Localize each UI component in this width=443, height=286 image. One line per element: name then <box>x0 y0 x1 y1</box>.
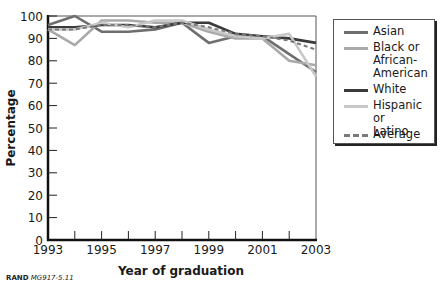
y-axis-title: Percentage <box>4 89 18 166</box>
legend-swatch-icon <box>344 31 368 34</box>
y-tick-label: 100 <box>20 10 43 24</box>
y-tick-label: 80 <box>28 54 43 68</box>
y-tick-label: 20 <box>28 189 43 203</box>
y-tick-label: 90 <box>28 32 43 46</box>
legend-swatch-icon <box>344 47 368 50</box>
x-tick-label: 1993 <box>33 243 64 257</box>
legend-label: Average <box>373 128 435 141</box>
x-axis-title: Year of graduation <box>117 264 244 278</box>
legend-swatch-icon <box>344 134 368 137</box>
legend-swatch-icon <box>344 105 368 108</box>
x-tick-label: 2001 <box>247 243 278 257</box>
y-tick-label: 60 <box>28 99 43 113</box>
series-line-asian <box>48 16 316 72</box>
y-tick-label: 50 <box>28 122 43 136</box>
x-tick-label: 1995 <box>86 243 117 257</box>
chart-legend: AsianBlack orAfrican-AmericanWhiteHispan… <box>333 19 435 144</box>
legend-swatch-icon <box>344 89 368 92</box>
source-note: RAND MG917-5.11 <box>6 274 74 282</box>
y-tick-label: 30 <box>28 166 43 180</box>
legend-label: White <box>373 83 435 96</box>
y-tick-label: 70 <box>28 77 43 91</box>
legend-label: Asian <box>373 25 435 38</box>
series-lines <box>48 16 316 77</box>
source-org: RAND <box>6 274 28 282</box>
x-axis-ticks: 199319951997199920012003 <box>33 231 332 257</box>
y-tick-label: 40 <box>28 144 43 158</box>
x-tick-label: 2003 <box>301 243 332 257</box>
legend-label: Black orAfrican-American <box>373 41 435 80</box>
x-tick-label: 1999 <box>194 243 225 257</box>
y-tick-label: 10 <box>28 211 43 225</box>
source-id: MG917-5.11 <box>31 274 74 282</box>
x-tick-label: 1997 <box>140 243 171 257</box>
y-axis-ticks: 0102030405060708090100 <box>20 10 57 248</box>
